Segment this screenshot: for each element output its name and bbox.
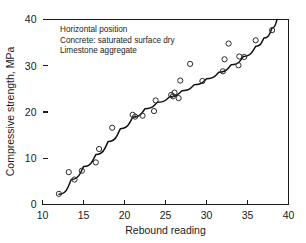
annotation-line-1: Horizontal position bbox=[60, 25, 128, 34]
annotation-line-2: Concrete: saturated surface dry bbox=[60, 36, 176, 45]
x-tick-label: 30 bbox=[201, 209, 213, 221]
x-tick-label: 20 bbox=[119, 209, 131, 221]
y-tick-label: 30 bbox=[25, 60, 37, 72]
y-axis-title: Compressive strength, MPa bbox=[4, 47, 16, 177]
x-tick-label: 35 bbox=[242, 209, 254, 221]
x-tick-label: 10 bbox=[37, 209, 49, 221]
x-tick-label: 40 bbox=[283, 209, 295, 221]
x-tick-label: 25 bbox=[160, 209, 172, 221]
x-tick-label: 15 bbox=[78, 209, 90, 221]
x-axis-title: Rebound reading bbox=[125, 224, 206, 236]
y-tick-label: 10 bbox=[25, 152, 37, 164]
rebound-vs-strength-scatter-chart: 10152025303540 010203040 Horizontal posi… bbox=[0, 0, 306, 243]
chart-figure: 10152025303540 010203040 Horizontal posi… bbox=[0, 0, 306, 243]
y-tick-label: 0 bbox=[31, 198, 37, 210]
annotation-line-3: Limestone aggregate bbox=[60, 46, 137, 55]
y-tick-label: 20 bbox=[25, 106, 37, 118]
y-tick-label: 40 bbox=[25, 13, 37, 25]
